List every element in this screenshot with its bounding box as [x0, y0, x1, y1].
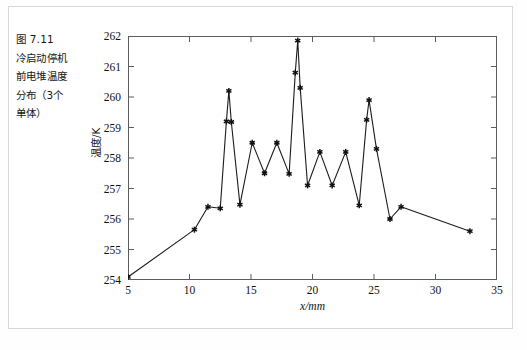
y-tick-label: 254: [104, 274, 121, 286]
x-tick-label: 5: [125, 284, 131, 296]
data-point-marker: [262, 170, 267, 176]
data-point-marker: [295, 38, 300, 44]
data-point-marker: [298, 85, 303, 91]
data-point-marker: [374, 146, 379, 152]
y-tick-label: 256: [104, 213, 121, 225]
x-tick-label: 20: [307, 284, 319, 296]
data-point-marker: [274, 140, 279, 146]
figure-caption: 图 7.11 冷启动停机 前电堆温度 分布（3个 单体）: [16, 30, 102, 123]
data-point-marker: [467, 228, 472, 234]
data-point-marker: [343, 149, 348, 155]
plot-canvas: [128, 36, 497, 280]
axis-ticks: [128, 36, 497, 280]
x-tick-label: 10: [184, 284, 196, 296]
series-line: [128, 41, 470, 277]
data-point-marker: [357, 202, 362, 208]
data-point-marker: [305, 182, 310, 188]
y-tick-label: 258: [104, 152, 121, 164]
data-series-group: [128, 38, 473, 280]
x-tick-label: 15: [245, 284, 257, 296]
y-tick-label: 262: [104, 30, 121, 42]
data-point-marker: [224, 118, 229, 124]
data-point-marker: [226, 88, 231, 94]
y-tick-label: 260: [104, 91, 121, 103]
x-tick-label: 25: [368, 284, 380, 296]
figure-root: 图 7.11 冷启动停机 前电堆温度 分布（3个 单体） 温度/K 254255…: [0, 0, 527, 350]
plot-area: 254255256257258259260261262 510152025303…: [128, 36, 497, 280]
data-point-marker: [229, 119, 234, 125]
x-tick-label: 30: [430, 284, 442, 296]
data-point-marker: [293, 70, 298, 76]
x-tick-label: 35: [491, 284, 503, 296]
y-tick-label: 255: [104, 244, 121, 256]
y-axis-label: 温度/K: [88, 128, 103, 158]
y-tick-label: 259: [104, 122, 121, 134]
data-point-marker: [128, 274, 131, 280]
y-tick-label: 261: [104, 61, 121, 73]
data-point-marker: [317, 149, 322, 155]
data-point-marker: [250, 140, 255, 146]
data-point-marker: [366, 97, 371, 103]
data-point-marker: [237, 202, 242, 208]
data-point-marker: [330, 182, 335, 188]
y-tick-label: 257: [104, 183, 121, 195]
x-axis-label: x/mm: [128, 300, 497, 312]
data-point-marker: [287, 171, 292, 177]
data-point-marker: [364, 117, 369, 123]
